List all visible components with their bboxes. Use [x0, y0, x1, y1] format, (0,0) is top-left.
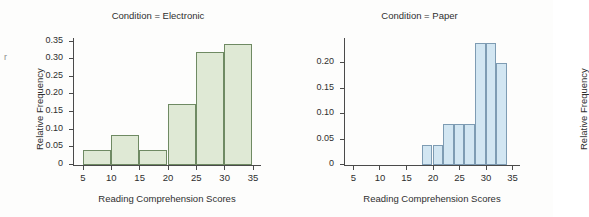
x-tick-paper-4: 25	[459, 166, 460, 170]
y-axis-label-electronic: Relative Frequency	[34, 68, 45, 150]
x-tick-label-electronic-3: 20	[163, 172, 174, 183]
x-tick-electronic-0: 5	[83, 166, 84, 170]
x-tick-label-paper-6: 35	[507, 172, 518, 183]
bar-electronic-25-30	[196, 52, 224, 165]
panel-electronic: Condition = Electronic Relative Frequenc…	[0, 0, 280, 217]
bar-paper-30-32	[486, 43, 497, 165]
y-tick-label-electronic-6: 0.30	[45, 52, 63, 62]
plot-area-electronic: 00.050.100.150.200.250.300.35 5101520253…	[73, 38, 261, 166]
y-tick-label-electronic-2: 0.10	[45, 123, 63, 133]
bar-paper-24-26	[454, 124, 465, 165]
panel-title-paper: Condition = Paper	[278, 10, 557, 21]
x-tick-paper-2: 15	[406, 166, 407, 170]
y-tick-label-electronic-7: 0.35	[45, 35, 63, 45]
bar-paper-26-28	[464, 124, 475, 165]
x-tick-electronic-3: 20	[168, 166, 169, 170]
y-tick-label-paper-2: 0.10	[316, 107, 334, 117]
x-tick-paper-0: 5	[353, 166, 354, 170]
x-tick-label-paper-4: 25	[454, 172, 465, 183]
y-tick-electronic-4: 0.20	[69, 93, 73, 94]
x-tick-label-paper-3: 20	[428, 172, 439, 183]
x-tick-label-paper-1: 10	[375, 172, 386, 183]
x-axis-label-electronic: Reading Comprehension Scores	[73, 193, 261, 204]
bar-group-paper	[345, 38, 520, 165]
y-tick-label-electronic-1: 0.05	[45, 140, 63, 150]
bar-electronic-10-15	[111, 135, 139, 165]
bar-paper-28-30	[475, 43, 486, 165]
y-tick-electronic-5: 0.25	[69, 76, 73, 77]
y-tick-label-paper-3: 0.15	[316, 82, 334, 92]
y-tick-label-electronic-4: 0.20	[45, 87, 63, 97]
y-tick-label-paper-1: 0.05	[316, 133, 334, 143]
y-tick-electronic-2: 0.10	[69, 129, 73, 130]
x-tick-paper-1: 10	[379, 166, 380, 170]
y-tick-electronic-1: 0.05	[69, 146, 73, 147]
y-tick-paper-4: 0.20	[340, 62, 344, 63]
x-tick-electronic-4: 25	[196, 166, 197, 170]
x-tick-electronic-1: 10	[111, 166, 112, 170]
y-tick-electronic-0: 0	[69, 164, 73, 165]
y-tick-paper-2: 0.10	[340, 113, 344, 114]
bar-electronic-15-20	[139, 150, 167, 165]
x-tick-paper-5: 30	[486, 166, 487, 170]
y-tick-label-electronic-3: 0.15	[45, 105, 63, 115]
y-tick-electronic-6: 0.30	[69, 58, 73, 59]
x-tick-label-electronic-2: 15	[134, 172, 145, 183]
x-tick-label-electronic-4: 25	[191, 172, 202, 183]
x-tick-electronic-6: 35	[253, 166, 254, 170]
y-axis-label-paper: Relative Frequency	[578, 68, 589, 150]
panel-title-electronic: Condition = Electronic	[0, 10, 298, 21]
bar-paper-32-34	[496, 63, 507, 165]
x-tick-label-electronic-6: 35	[248, 172, 259, 183]
x-tick-paper-6: 35	[512, 166, 513, 170]
bar-group-electronic	[74, 38, 261, 165]
y-tick-electronic-7: 0.35	[69, 41, 73, 42]
bar-electronic-5-10	[83, 150, 111, 165]
bar-paper-22-24	[443, 124, 454, 165]
x-tick-electronic-2: 15	[139, 166, 140, 170]
x-tick-label-electronic-1: 10	[106, 172, 117, 183]
y-tick-electronic-3: 0.15	[69, 111, 73, 112]
bar-paper-18-20	[422, 145, 433, 165]
bar-electronic-20-25	[168, 104, 196, 165]
x-tick-label-electronic-5: 30	[219, 172, 230, 183]
x-axis-label-paper: Reading Comprehension Scores	[344, 193, 520, 204]
bar-paper-20-22	[433, 145, 444, 165]
plot-area-paper: 00.050.100.150.20 5101520253035	[344, 38, 520, 166]
bar-electronic-30-35	[224, 44, 252, 165]
y-tick-paper-3: 0.15	[340, 88, 344, 89]
x-tick-label-paper-5: 30	[481, 172, 492, 183]
y-tick-label-paper-0: 0	[329, 158, 334, 168]
x-tick-label-electronic-0: 5	[80, 172, 85, 183]
y-tick-paper-0: 0	[340, 164, 344, 165]
x-tick-label-paper-2: 15	[401, 172, 412, 183]
x-tick-label-paper-0: 5	[351, 172, 356, 183]
panel-paper: Condition = Paper Relative Frequency 00.…	[278, 0, 553, 217]
y-tick-label-electronic-0: 0	[58, 158, 63, 168]
x-tick-electronic-5: 30	[224, 166, 225, 170]
y-tick-label-paper-4: 0.20	[316, 56, 334, 66]
y-tick-paper-1: 0.05	[340, 139, 344, 140]
x-tick-paper-3: 20	[433, 166, 434, 170]
y-tick-label-electronic-5: 0.25	[45, 70, 63, 80]
